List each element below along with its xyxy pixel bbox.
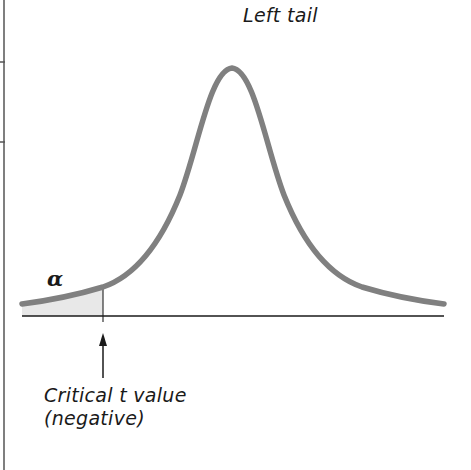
left-frame — [0, 0, 5, 470]
critical-value-label-line1: Critical t value — [44, 384, 187, 407]
t-distribution-diagram: Left tail α Critical t value (negative) — [0, 0, 471, 470]
critical-value-label-line2: (negative) — [44, 407, 187, 430]
alpha-label: α — [47, 266, 63, 291]
arrow-up-icon — [99, 333, 107, 378]
critical-value-label: Critical t value (negative) — [44, 384, 187, 430]
diagram-title: Left tail — [243, 4, 318, 26]
t-distribution-curve — [22, 68, 444, 304]
